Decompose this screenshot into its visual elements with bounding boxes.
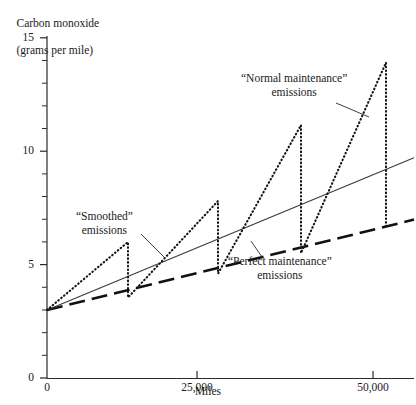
y-minor-ticks	[42, 60, 47, 355]
annotation-leaders	[141, 103, 369, 257]
annotation-smoothed-line2: emissions	[76, 224, 133, 238]
annotation-normal-maintenance-line2: emissions	[241, 86, 347, 100]
annotation-perfect-maintenance-line1: “Perfect maintenance”	[228, 255, 332, 267]
annotation-normal-maintenance-line1: “Normal maintenance”	[241, 72, 347, 84]
y-tick-label-15: 15	[8, 31, 34, 43]
y-tick-label-5: 5	[8, 258, 34, 270]
y-tick-label-10: 10	[8, 144, 34, 156]
annotation-smoothed: “Smoothed” emissions	[76, 210, 133, 237]
plot-area	[0, 0, 416, 405]
series-normal-maintenance	[47, 63, 386, 310]
x-major-ticks	[197, 371, 373, 379]
annotation-smoothed-line1: “Smoothed”	[76, 210, 133, 222]
y-major-ticks	[40, 38, 47, 378]
x-axis-title: Miles	[0, 385, 416, 399]
emissions-chart-figure: Carbon monoxide (grams per mile)	[0, 0, 416, 405]
annotation-normal-maintenance: “Normal maintenance” emissions	[241, 72, 347, 99]
y-tick-label-0: 0	[8, 371, 34, 383]
annotation-perfect-maintenance-line2: emissions	[228, 269, 332, 283]
annotation-perfect-maintenance: “Perfect maintenance” emissions	[228, 255, 332, 282]
